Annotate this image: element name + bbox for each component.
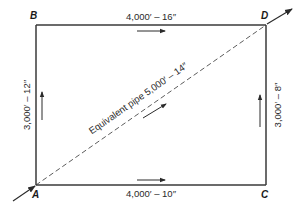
equivalent-pipe-label: Equivalent pipe 5,000′ – 14″ xyxy=(87,60,190,137)
node-label-c: C xyxy=(261,189,269,200)
node-label-d: D xyxy=(261,10,268,21)
pipe-label-bd: 4,000′ – 16″ xyxy=(126,11,177,22)
flow-arrow-equivalent-icon xyxy=(143,104,166,118)
pipe-label-cd: 3,000′ – 8″ xyxy=(272,82,283,127)
node-label-a: A xyxy=(31,189,39,200)
equivalent-pipe-line xyxy=(36,25,266,185)
pipe-label-ab: 3,000′ – 12″ xyxy=(21,79,32,130)
node-label-b: B xyxy=(30,10,37,21)
pipe-network-diagram: B D A C 4,000′ – 16″ 4,000′ – 10″ 3,000′… xyxy=(0,0,300,209)
pipe-label-ac: 4,000′ – 10″ xyxy=(126,188,177,199)
outflow-arrow-icon xyxy=(267,9,292,24)
